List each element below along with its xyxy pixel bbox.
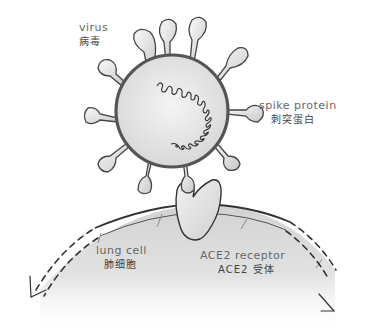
virus-particle-icon <box>116 55 228 167</box>
spike-protein-label-en: spike protein <box>259 100 337 111</box>
spike-icon <box>98 60 126 86</box>
virus-cell-diagram <box>0 0 373 334</box>
spike-icon <box>84 108 118 124</box>
spike-icon <box>138 160 152 194</box>
spike-icon <box>226 105 263 122</box>
spike-protein-label: spike protein 刺突蛋白 <box>259 100 337 125</box>
spike-protein-label-zh: 刺突蛋白 <box>271 115 337 125</box>
lung-cell-label: lung cell 肺细胞 <box>96 245 147 270</box>
spike-icon <box>98 143 130 172</box>
virus-label-zh: 病毒 <box>79 37 108 47</box>
lung-cell-label-en: lung cell <box>96 245 147 256</box>
virus-label-en: virus <box>79 22 108 33</box>
lung-cell-label-zh: 肺细胞 <box>104 260 147 270</box>
ace2-receptor-label-zh: ACE2 受体 <box>218 265 285 275</box>
ace2-receptor-label: ACE2 receptor ACE2 受体 <box>200 250 285 275</box>
ace2-receptor-label-en: ACE2 receptor <box>200 250 285 261</box>
spike-icon <box>189 17 206 62</box>
virus-label: virus 病毒 <box>79 22 108 47</box>
